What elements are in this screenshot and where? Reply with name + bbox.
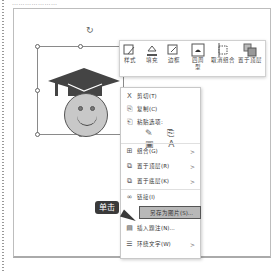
menu-item-send-to-back[interactable]: ⧉ 置于底层(K) > bbox=[121, 175, 200, 188]
floating-toolbar: 样式 填充 边框 四周型 取消组合 置于顶层 bbox=[119, 40, 266, 77]
fill-icon bbox=[145, 43, 159, 57]
cut-icon: X bbox=[125, 92, 134, 101]
chevron-right-icon: > bbox=[190, 238, 195, 251]
right-eye bbox=[90, 106, 95, 111]
resize-handle-tm[interactable] bbox=[78, 44, 83, 49]
send-to-back-icon: ⧉ bbox=[125, 177, 134, 186]
menu-item-group[interactable]: ⊞ 组合(G) > bbox=[121, 145, 200, 158]
link-icon: ∞ bbox=[125, 193, 134, 202]
resize-handle-tl[interactable] bbox=[35, 44, 40, 49]
chevron-right-icon: > bbox=[190, 175, 195, 188]
smiley-face bbox=[64, 93, 108, 137]
border-icon bbox=[167, 43, 181, 57]
wrap-square-button[interactable]: 四周型 bbox=[191, 43, 205, 71]
chevron-right-icon: > bbox=[190, 145, 195, 158]
bring-to-front-button[interactable]: 置于顶层 bbox=[238, 43, 262, 64]
menu-item-cut[interactable]: X 剪切(T) bbox=[121, 90, 200, 103]
left-eye bbox=[78, 106, 83, 111]
bring-to-front-icon: ⧉ bbox=[125, 162, 134, 171]
menu-separator bbox=[121, 143, 200, 144]
resize-handle-bl[interactable] bbox=[35, 132, 40, 137]
fill-button[interactable]: 填充 bbox=[145, 43, 159, 64]
ungroup-icon bbox=[216, 43, 230, 57]
smile-mouth bbox=[77, 116, 97, 126]
group-icon: ⊞ bbox=[125, 147, 134, 156]
rotate-handle-icon[interactable]: ↻ bbox=[86, 26, 94, 35]
click-callout: 单击 bbox=[95, 201, 119, 214]
copy-icon: ⎘ bbox=[125, 105, 134, 114]
menu-separator bbox=[121, 189, 200, 190]
context-menu: X 剪切(T) ⎘ 复制(C) ⎗ 粘贴选项: ✎ ⎘ ▣ A ⊞ 组合(G) … bbox=[120, 87, 201, 259]
ungroup-button[interactable]: 取消组合 bbox=[211, 43, 235, 64]
bring-to-front-icon bbox=[243, 43, 257, 57]
menu-item-link[interactable]: ∞ 链接(I) bbox=[121, 191, 200, 204]
menu-item-bring-to-front[interactable]: ⧉ 置于顶层(R) > bbox=[121, 160, 200, 173]
border-button[interactable]: 边框 bbox=[167, 43, 181, 64]
wrap-text-icon: ☰ bbox=[125, 240, 134, 249]
chevron-right-icon: > bbox=[190, 160, 195, 173]
menu-item-save-as-picture[interactable]: 另存为图片(S)... bbox=[139, 206, 201, 219]
menu-item-copy[interactable]: ⎘ 复制(C) bbox=[121, 103, 200, 116]
resize-handle-ml[interactable] bbox=[35, 88, 40, 93]
top-caption: ………………… bbox=[12, 0, 58, 6]
wrap-square-icon bbox=[191, 43, 205, 57]
style-button[interactable]: 样式 bbox=[123, 43, 137, 64]
style-icon bbox=[123, 43, 137, 57]
page-margin-dots bbox=[2, 0, 4, 271]
menu-item-wrap-text[interactable]: ☰ 环绕文字(W) > bbox=[121, 238, 200, 251]
paste-icon: ⎗ bbox=[125, 118, 134, 127]
caption-icon: ▤ bbox=[125, 224, 134, 233]
